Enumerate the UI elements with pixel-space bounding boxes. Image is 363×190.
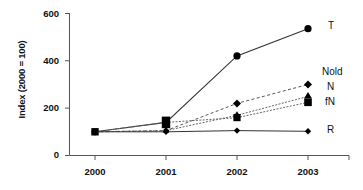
x-tick-label-2003: 2003 [285,166,331,177]
series-label-N: N [327,81,334,92]
y-tick-label-0: 0 [25,149,59,160]
x-tick-marks [95,156,349,161]
series-line-Nold [95,85,308,132]
series-label-Nold: Nold [322,66,343,77]
series-label-T: T [328,20,334,31]
series-markers-T [92,25,312,135]
series-line-T [95,29,308,132]
series-line-N [95,96,308,131]
y-tick-label-600: 600 [25,8,59,19]
y-axis-title: Index (2000 = 100) [16,24,27,136]
x-tick-label-2002: 2002 [214,166,260,177]
series-label-fN: fN [325,96,335,107]
chart-plot-area [0,0,363,190]
y-tick-label-400: 400 [25,55,59,66]
chart-figure: Index (2000 = 100) 600 400 200 0 2000 20… [0,0,363,190]
x-tick-label-2001: 2001 [143,166,189,177]
series-label-R: R [327,124,334,135]
y-tick-label-200: 200 [25,102,59,113]
x-tick-label-2000: 2000 [72,166,118,177]
y-tick-marks [65,14,70,156]
